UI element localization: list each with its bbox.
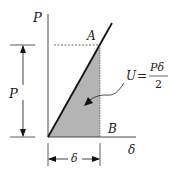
displacement-dimension-label: δ <box>71 152 78 165</box>
horizontal-axis-label: δ <box>128 143 135 157</box>
equation-lhs: U <box>126 69 137 83</box>
diagram-canvas: P δ A B P δ U = Pδ 2 <box>0 0 171 177</box>
equation-numerator: Pδ <box>149 61 164 74</box>
vertical-axis-label: P <box>32 10 42 25</box>
equation-denominator: 2 <box>155 78 162 91</box>
point-a-label: A <box>86 29 96 43</box>
load-displacement-diagram: P δ A B P δ U = Pδ 2 <box>0 0 171 177</box>
point-b-label: B <box>107 122 117 136</box>
equation-equals: = <box>137 69 147 83</box>
load-dimension-label: P <box>8 86 18 101</box>
